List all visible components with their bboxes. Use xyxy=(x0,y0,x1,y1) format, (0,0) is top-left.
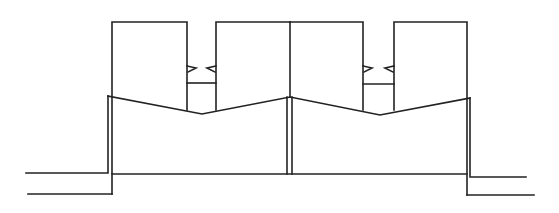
left-step-inner xyxy=(26,96,108,173)
notch-left xyxy=(187,66,216,83)
diagram-canvas xyxy=(0,0,559,213)
wedge-right-b-icon xyxy=(385,66,394,72)
right-step-inner xyxy=(470,98,526,177)
diagram-svg xyxy=(0,0,559,213)
block-3-outline xyxy=(290,22,363,110)
wedge-left-b-icon xyxy=(207,66,216,72)
wedge-left-a-icon xyxy=(187,66,196,72)
block-2-outline xyxy=(216,22,290,110)
block-1-outline xyxy=(112,22,187,194)
notch-right xyxy=(363,66,394,84)
block-4-outline xyxy=(394,22,467,195)
wedge-right-a-icon xyxy=(363,66,372,72)
zigzag-base-edge xyxy=(108,96,470,115)
